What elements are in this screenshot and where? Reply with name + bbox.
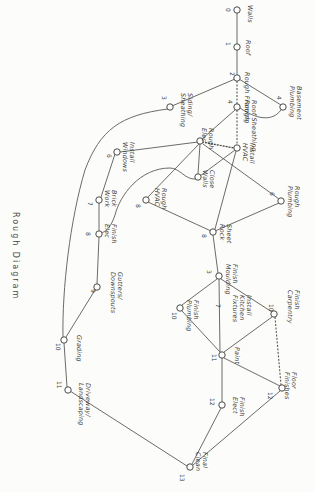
label-driveway: Driveway/ Landscaping (77, 383, 91, 425)
num-paint: 11 (211, 354, 218, 362)
node-basement-plumbing (280, 104, 286, 110)
num-gutters: 9 (90, 289, 97, 293)
label-install-kitchen: Install Kitchen Fixtures (231, 295, 252, 322)
label-finish-moulding: Finish Moulding (224, 264, 238, 295)
label-roof: Roof (244, 40, 251, 55)
node-finish-elec (96, 231, 102, 237)
edge-gutters-grading (66, 290, 95, 337)
num-roof: 1 (225, 42, 232, 46)
label-basement-plumbing: Basement Plumbing (288, 86, 302, 120)
label-close-walls: Close Walls (201, 170, 215, 188)
label-finish-plumbing: Finish Plumbing (185, 300, 199, 331)
diagram-canvas: Walls 0 Roof 1 Rough Framing 2 Siding/ S… (0, 0, 314, 492)
label-siding: Siding/ Sheathing (179, 93, 193, 127)
node-finish-plumbing (177, 305, 183, 311)
edge-finishelec-gutters (97, 237, 99, 284)
node-finish-elect (219, 402, 225, 408)
node-sheetrock (210, 229, 216, 235)
num-driveway: 11 (56, 381, 63, 389)
num-brick-work: 7 (87, 202, 94, 206)
label-paint: Paint (233, 347, 240, 364)
num-finish-elect: 12 (209, 398, 216, 406)
edge-grading-driveway (64, 343, 67, 387)
node-rough-hvac (143, 197, 149, 203)
num-rough-framing: 2 (229, 72, 236, 76)
node-walls (234, 7, 240, 13)
num-finish-moulding: 3 (206, 270, 213, 274)
num-install-kitchen: 7 (215, 304, 222, 308)
num-rough-hvac: 8 (135, 204, 142, 208)
num-finish-plumbing: 10 (171, 312, 178, 320)
label-final-clean: Final Clean (194, 452, 208, 471)
num-siding: 3 (161, 96, 168, 100)
label-rough-hvac: Rough HVAC (153, 188, 167, 210)
num-floor-finishes: 12 (267, 392, 274, 400)
node-brick-work (96, 197, 102, 203)
node-install-hvac (234, 145, 240, 151)
node-paint (219, 352, 225, 358)
num-install-windows: 6 (106, 154, 113, 158)
label-rough-elec: Rough Elec (200, 128, 214, 150)
node-rough-plumbing (278, 198, 284, 204)
label-floor-finishes: Floor Finishes (283, 372, 297, 400)
node-final-clean (187, 464, 193, 470)
node-driveway (65, 387, 71, 393)
num-walls: 0 (225, 8, 232, 12)
node-roof (234, 44, 240, 50)
node-roof-sheathing (234, 104, 240, 110)
diagram-title: Rough Diagram (11, 212, 20, 300)
label-finish-carpentry: Finish Carpentry (286, 290, 300, 324)
num-grading: 10 (55, 343, 62, 351)
num-roof-sheathing: 4 (227, 100, 234, 104)
label-walls: Walls (246, 5, 253, 23)
edge-carpentry-floor (275, 317, 281, 385)
num-finish-carpentry: 10 (268, 304, 275, 312)
num-basement: 4 (276, 96, 283, 100)
edge-moulding-paint (219, 279, 220, 352)
label-brick-work: Brick Work (103, 190, 117, 207)
num-finish-elec: 8 (85, 232, 92, 236)
num-final-clean: 13 (179, 474, 186, 482)
label-finish-elect: Finish Elect (231, 397, 245, 417)
num-sheetrock: 8 (201, 234, 208, 238)
node-install-windows (114, 149, 120, 155)
label-sheetrock: Sheet Rock (218, 224, 232, 243)
label-finish-elec: Finish Elec (103, 224, 117, 244)
label-gutters: Gutters/ Downspouts (109, 272, 123, 313)
label-grading: Grading (75, 335, 82, 362)
label-rough-plumbing: Rough Plumbing (286, 186, 300, 217)
node-finish-moulding (216, 273, 222, 279)
label-install-hvac: Install HVAC (241, 143, 255, 164)
label-install-windows: Install Windows (121, 142, 135, 172)
node-siding (167, 104, 173, 110)
num-rough-plumbing: 6 (269, 192, 276, 196)
network-edges (0, 0, 314, 492)
